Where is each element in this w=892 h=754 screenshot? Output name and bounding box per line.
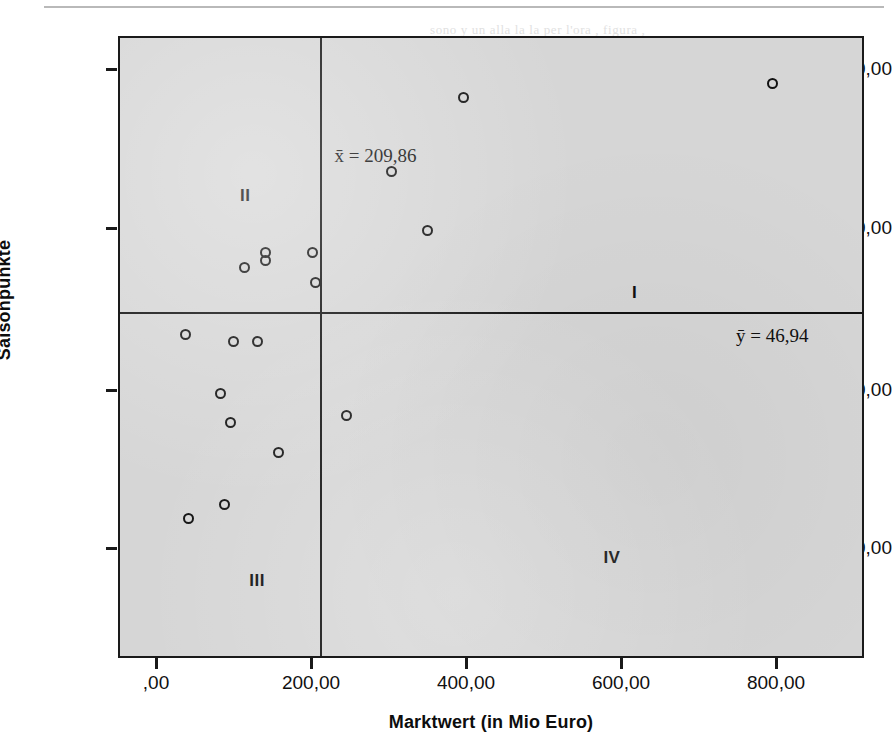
x-tick-label-200: 200,00 [282, 672, 340, 694]
data-point [219, 499, 230, 510]
x-tick-label-0: ,00 [143, 672, 169, 694]
quadrant-label-ii: II [240, 186, 250, 206]
data-point [228, 336, 239, 347]
data-point [260, 255, 271, 266]
data-point [458, 92, 469, 103]
x-tick-mark-200 [310, 658, 313, 669]
quadrant-label-iii: III [249, 571, 265, 591]
x-tick-label-400: 400,00 [437, 672, 495, 694]
y-mean-reference-line [120, 312, 862, 314]
quadrant-label-i: I [632, 283, 637, 303]
page-rule-line [44, 6, 884, 8]
data-point [273, 447, 284, 458]
x-mean-label: x̄ = 209,86 [335, 145, 417, 167]
x-tick-mark-600 [620, 658, 623, 669]
scatter-chart-figure: sono y un alla la la per l'ora , figura … [0, 0, 892, 754]
y-tick-mark-40 [106, 389, 117, 392]
y-tick-mark-80 [106, 68, 117, 71]
y-tick-mark-60 [106, 227, 117, 230]
x-tick-mark-800 [775, 658, 778, 669]
data-point [252, 336, 263, 347]
y-mean-label: ȳ = 46,94 [736, 325, 808, 347]
data-point [239, 262, 250, 273]
data-point [422, 225, 433, 236]
data-point [307, 247, 318, 258]
quadrant-label-iv: IV [603, 548, 620, 568]
data-point [215, 388, 226, 399]
y-tick-mark-20 [106, 547, 117, 550]
x-tick-label-600: 600,00 [592, 672, 650, 694]
data-point [386, 166, 397, 177]
x-tick-mark-0 [155, 658, 158, 669]
data-point [767, 78, 778, 89]
data-point [225, 417, 236, 428]
x-tick-label-800: 800,00 [747, 672, 805, 694]
plot-panel: x̄ = 209,86 ȳ = 46,94 IIIIIIIV [118, 36, 864, 658]
x-mean-reference-line [320, 38, 322, 656]
x-tick-mark-400 [465, 658, 468, 669]
data-point [183, 513, 194, 524]
data-point [180, 329, 191, 340]
y-axis-title: Saisonpunkte [0, 240, 15, 360]
x-axis-title: Marktwert (in Mio Euro) [389, 712, 594, 733]
data-point [341, 410, 352, 421]
